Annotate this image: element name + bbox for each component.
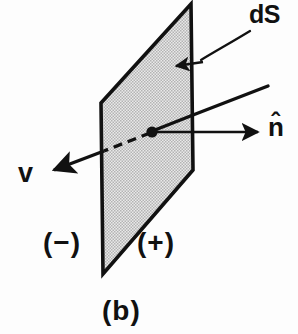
label-negative-side: (−): [43, 229, 81, 257]
label-positive-side: (+): [137, 229, 175, 257]
figure-caption: (b): [102, 297, 141, 325]
vector-surface-diagram: [0, 0, 298, 334]
velocity-vector-arrow: [54, 151, 104, 170]
label-surface-element: dS: [249, 2, 280, 27]
figure-container: dS n̂ v (−) (+) (b): [0, 0, 298, 334]
surface-point-dot: [146, 126, 157, 137]
ds-leader-curve: [201, 31, 250, 60]
velocity-line-far-segment: [193, 86, 268, 115]
label-normal-vector: n̂: [268, 114, 284, 140]
label-velocity-vector: v: [18, 160, 33, 187]
